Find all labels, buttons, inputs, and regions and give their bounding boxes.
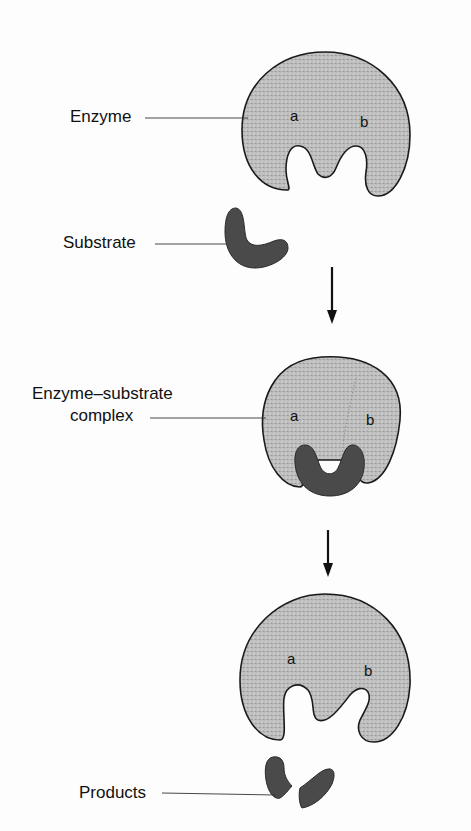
diagram-canvas: Enzyme Substrate Enzyme–substrate comple… — [0, 0, 471, 831]
released-site-b: b — [364, 663, 372, 679]
released-site-a: a — [287, 651, 295, 667]
products-leader-line — [162, 793, 276, 795]
enzyme-shape — [242, 52, 410, 196]
complex-enzyme-shape — [263, 357, 401, 487]
product-2-shape — [299, 769, 334, 808]
enzyme-site-b: b — [360, 114, 368, 130]
enzyme-label: Enzyme — [70, 107, 131, 127]
substrate-label: Substrate — [63, 233, 136, 253]
arrow-down-icon — [327, 267, 337, 324]
complex-site-a: a — [290, 408, 298, 424]
product-1-shape — [265, 757, 292, 798]
complex-label-line2: complex — [70, 406, 133, 426]
complex-label-line1: Enzyme–substrate — [32, 384, 173, 404]
substrate-shape — [225, 208, 288, 268]
complex-site-b: b — [366, 412, 374, 428]
products-label: Products — [79, 783, 146, 803]
enzyme-site-a: a — [290, 108, 298, 124]
released-enzyme-shape — [240, 594, 410, 742]
arrow-down-icon — [323, 530, 333, 577]
